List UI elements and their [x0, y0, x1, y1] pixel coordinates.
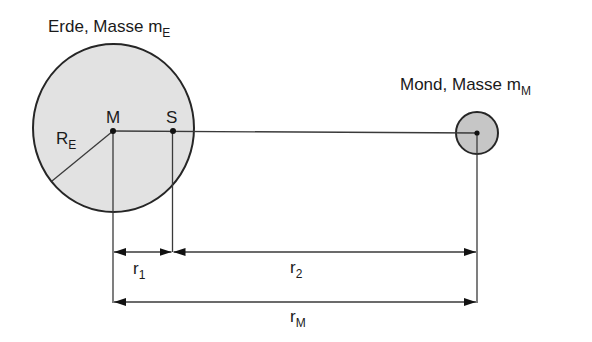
- r2-label: r2: [290, 258, 303, 281]
- moon-center-dot: [474, 130, 479, 135]
- point-m-dot: [110, 128, 116, 134]
- moon-label: Mond, Masse mM: [400, 75, 531, 98]
- earth-label: Erde, Masse mE: [48, 17, 170, 40]
- point-s-dot: [170, 128, 176, 134]
- point-m-label: M: [106, 108, 120, 127]
- r1-label: r1: [133, 259, 146, 282]
- earth-moon-barycenter-diagram: Erde, Masse mE Mond, Masse mM M S RE r1 …: [0, 0, 592, 342]
- rm-label: rM: [290, 307, 306, 330]
- point-s-label: S: [166, 108, 177, 127]
